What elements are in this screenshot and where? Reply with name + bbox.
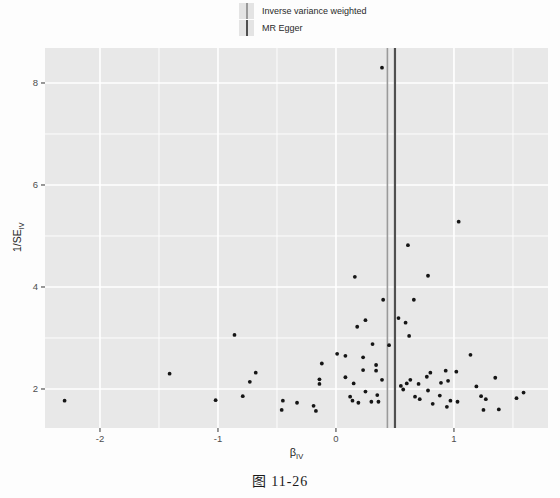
snp-point [168, 372, 172, 376]
snp-point [344, 354, 348, 358]
snp-point [408, 378, 412, 382]
mr-funnel-figure: Inverse variance weighted MR Egger -2-10… [0, 0, 560, 498]
y-tick-label: 4 [33, 281, 38, 292]
snp-point [479, 394, 483, 398]
snp-point [484, 397, 488, 401]
snp-point [348, 395, 352, 399]
snp-point [335, 352, 339, 356]
snp-point [439, 381, 443, 385]
snp-point [380, 66, 384, 70]
y-tick-label: 6 [33, 179, 38, 190]
snp-point [431, 402, 435, 406]
snp-point [254, 371, 258, 375]
figure-caption: 图 11-26 [0, 470, 560, 490]
snp-point [381, 298, 385, 302]
snp-point [515, 396, 519, 400]
snp-point [361, 355, 365, 359]
snp-point [407, 334, 411, 338]
snp-point [364, 318, 368, 322]
snp-point [457, 220, 461, 224]
snp-point [63, 399, 67, 403]
snp-point [469, 353, 473, 357]
snp-point [426, 274, 430, 278]
snp-point [497, 407, 501, 411]
snp-point [295, 401, 299, 405]
funnel-plot-canvas: -2-1012468βIV1/SEIV [0, 0, 560, 468]
snp-point [377, 400, 381, 404]
snp-point [406, 243, 410, 247]
snp-point [374, 369, 378, 373]
snp-point [428, 371, 432, 375]
snp-point [444, 369, 448, 373]
snp-point [233, 333, 237, 337]
x-tick-label: 1 [451, 433, 456, 444]
snp-point [320, 362, 324, 366]
snp-point [241, 394, 245, 398]
snp-point [405, 381, 409, 385]
snp-point [493, 376, 497, 380]
snp-point [474, 385, 478, 389]
snp-point [399, 384, 403, 388]
snp-point [397, 316, 401, 320]
x-tick-label: 0 [333, 433, 338, 444]
snp-point [522, 391, 526, 395]
snp-point [364, 390, 368, 394]
snp-point [375, 393, 379, 397]
snp-point [369, 400, 373, 404]
snp-point [401, 388, 405, 392]
snp-point [355, 325, 359, 329]
snp-point [426, 389, 430, 393]
snp-point [351, 399, 355, 403]
snp-point [412, 298, 416, 302]
snp-point [318, 377, 322, 381]
snp-point [374, 363, 378, 367]
x-axis-title: βIV [290, 446, 303, 461]
snp-point [482, 408, 486, 412]
snp-point [318, 382, 322, 386]
y-tick-label: 8 [33, 77, 38, 88]
snp-point [438, 394, 442, 398]
snp-point [413, 395, 417, 399]
snp-point [446, 379, 450, 383]
snp-point [425, 375, 429, 379]
y-tick-label: 2 [33, 383, 38, 394]
plot-panel [45, 48, 548, 428]
snp-point [281, 399, 285, 403]
snp-point [344, 375, 348, 379]
snp-point [371, 342, 375, 346]
snp-point [280, 408, 284, 412]
snp-point [404, 321, 408, 325]
snp-point [353, 275, 357, 279]
snp-point [356, 401, 360, 405]
snp-point [380, 378, 384, 382]
snp-point [445, 405, 449, 409]
snp-point [312, 404, 316, 408]
snp-point [352, 381, 356, 385]
snp-point [314, 409, 318, 413]
snp-point [214, 398, 218, 402]
x-tick-label: -1 [214, 433, 222, 444]
snp-point [417, 382, 421, 386]
snp-point [454, 370, 458, 374]
snp-point [418, 397, 422, 401]
snp-point [456, 400, 460, 404]
snp-point [387, 343, 391, 347]
snp-point [248, 380, 252, 384]
snp-point [449, 399, 453, 403]
y-axis-title: 1/SEIV [11, 222, 25, 252]
snp-point [361, 368, 365, 372]
x-tick-label: -2 [96, 433, 104, 444]
